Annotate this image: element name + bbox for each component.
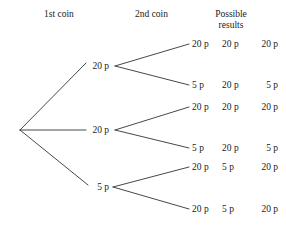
node-first-coin-c: 5 p: [49, 182, 109, 193]
result-row-3: 20 p20 p: [222, 102, 282, 113]
branch-b-to-3: [115, 107, 189, 130]
result-row-5: 5 p20 p: [222, 162, 282, 173]
branch-b-to-4: [115, 130, 189, 148]
node-second-coin-4: 5 p: [192, 143, 204, 154]
result-1-second: 20 p: [250, 39, 278, 50]
result-3-first: 20 p: [222, 102, 250, 113]
result-row-4: 20 p5 p: [222, 143, 282, 154]
header-first-coin: 1st coin: [44, 9, 74, 20]
branch-a-to-1: [115, 44, 189, 66]
result-6-first: 5 p: [222, 204, 250, 215]
result-1-first: 20 p: [222, 39, 250, 50]
result-4-second: 5 p: [250, 143, 278, 154]
header-results: results: [205, 20, 257, 31]
tree-branch-lines: [0, 0, 286, 230]
node-second-coin-2: 5 p: [192, 80, 204, 91]
result-4-first: 20 p: [222, 143, 250, 154]
branch-root-to-c: [20, 130, 88, 185]
branch-c-to-5: [113, 167, 189, 187]
node-second-coin-5: 20 p: [192, 162, 209, 173]
header-possible: Possible: [205, 9, 257, 20]
result-5-second: 20 p: [250, 162, 278, 173]
tree-diagram-page: 1st coin 2nd coin Possible results 20 p …: [0, 0, 286, 230]
branch-a-to-2: [115, 66, 189, 85]
result-row-1: 20 p20 p: [222, 39, 282, 50]
node-second-coin-3: 20 p: [192, 102, 209, 113]
result-3-second: 20 p: [250, 102, 278, 113]
node-first-coin-b: 20 p: [49, 125, 109, 136]
result-2-first: 20 p: [222, 80, 250, 91]
result-5-first: 5 p: [222, 162, 250, 173]
header-second-coin: 2nd coin: [135, 9, 168, 20]
result-row-2: 20 p5 p: [222, 80, 282, 91]
branch-c-to-6: [113, 187, 189, 209]
branch-root-to-a: [20, 63, 86, 130]
result-2-second: 5 p: [250, 80, 278, 91]
node-second-coin-1: 20 p: [192, 39, 209, 50]
result-row-6: 5 p20 p: [222, 204, 282, 215]
result-6-second: 20 p: [250, 204, 278, 215]
node-first-coin-a: 20 p: [49, 61, 109, 72]
node-second-coin-6: 20 p: [192, 204, 209, 215]
